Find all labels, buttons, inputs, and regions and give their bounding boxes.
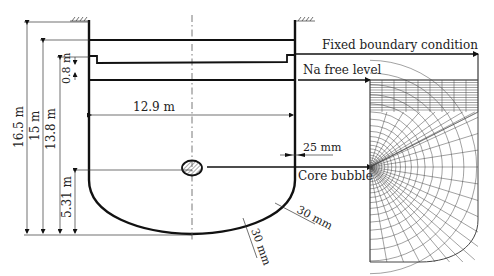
core-bubble-label: Core bubble: [298, 169, 373, 183]
dim-label-5-31: 5.31 m: [60, 175, 74, 218]
width-dim-label: 12.9 m: [133, 100, 176, 114]
support-hatch-left: [70, 17, 89, 21]
support-hatch-right: [295, 17, 315, 21]
core-bubble: [182, 161, 202, 176]
dim-label-0-8: 0.8 m: [60, 52, 73, 84]
fixed-boundary-label: Fixed boundary condition: [322, 38, 478, 52]
dim-label-16-5: 16.5 m: [12, 105, 26, 148]
bottom-thickness-label: 30 mm: [248, 227, 274, 268]
corner-thickness-label: 30 mm: [295, 203, 335, 233]
na-level-label: Na free level: [303, 63, 381, 77]
fe-mesh: [370, 60, 478, 273]
dim-label-15: 15 m: [28, 110, 42, 141]
vessel-diagram: Fixed boundary condition Na free level 1…: [0, 0, 494, 276]
dim-label-13-8: 13.8 m: [44, 107, 58, 150]
wall-thickness-label: 25 mm: [303, 141, 342, 154]
